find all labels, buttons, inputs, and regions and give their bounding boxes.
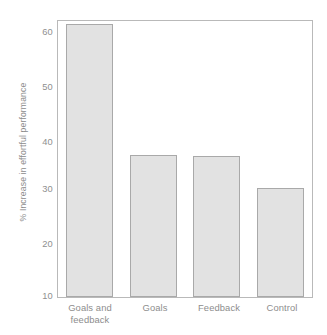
x-label-line-2: feedback — [59, 314, 121, 326]
y-tick-20: 20 — [26, 239, 53, 251]
x-label-line-1: Control — [251, 302, 313, 314]
y-tick-label-10: 10 — [29, 291, 53, 301]
y-tick-50: 50 — [26, 82, 53, 94]
y-tick-label-30: 30 — [29, 184, 53, 194]
x-label-line-1: Goals and — [59, 302, 121, 314]
y-tick-label-40: 40 — [29, 137, 53, 147]
y-tick-40: 40 — [26, 137, 53, 149]
y-tick-10: 10 — [26, 291, 53, 303]
x-label-goals: Goals — [124, 302, 186, 314]
y-tick-30: 30 — [26, 184, 53, 196]
x-label-line-1: Feedback — [188, 302, 250, 314]
bar-goals-and-feedback — [66, 24, 113, 297]
bar-feedback — [193, 156, 240, 297]
x-label-control: Control — [251, 302, 313, 314]
y-tick-label-20: 20 — [29, 239, 53, 249]
y-tick-label-50: 50 — [29, 82, 53, 92]
plot-area — [57, 20, 313, 298]
x-label-goals-and-feedback: Goals and feedback — [59, 302, 121, 325]
x-label-feedback: Feedback — [188, 302, 250, 314]
bar-control — [257, 188, 304, 297]
bar-chart: % Increase in effortful performance 60 5… — [0, 0, 327, 335]
y-tick-label-60: 60 — [29, 27, 53, 37]
bar-goals — [130, 155, 177, 297]
x-label-line-1: Goals — [124, 302, 186, 314]
y-tick-60: 60 — [26, 27, 53, 39]
